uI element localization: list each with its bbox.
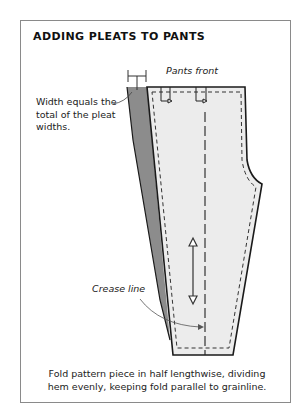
- width-note-label: Width equals the total of the pleat widt…: [36, 96, 136, 134]
- pants-pattern-diagram: [0, 0, 303, 419]
- pants-front-label: Pants front: [166, 65, 218, 78]
- figure-caption: Fold pattern piece in half lengthwise, d…: [46, 367, 268, 393]
- crease-line-label: Crease line: [92, 283, 145, 296]
